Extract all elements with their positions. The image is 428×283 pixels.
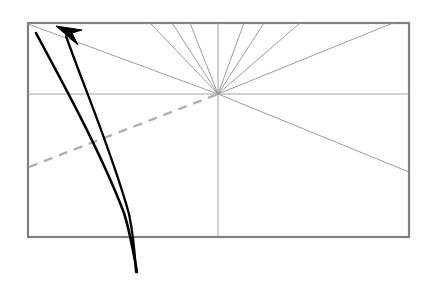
- ray-4: [190, 23, 218, 94]
- technical-diagram-figure: [0, 0, 428, 283]
- ray-8: [218, 23, 300, 94]
- diagram-canvas: [0, 0, 428, 283]
- bounding-rectangle: [28, 23, 409, 237]
- ray-7: [218, 23, 264, 94]
- ray-2: [150, 23, 218, 94]
- ray-6: [218, 23, 244, 94]
- dashed-reference-line: [29, 94, 218, 167]
- ray-10: [218, 94, 409, 172]
- ray-1: [28, 24, 218, 94]
- ray-9: [218, 23, 393, 94]
- ray-3: [172, 23, 218, 94]
- ray-fan-group: [28, 23, 409, 172]
